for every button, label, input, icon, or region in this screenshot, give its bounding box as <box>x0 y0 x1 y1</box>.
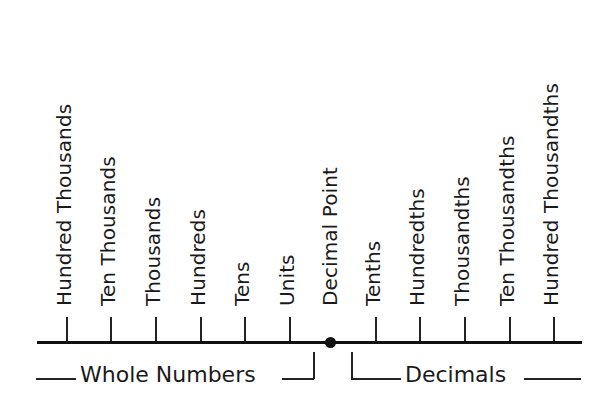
label-text: Decimal Point <box>320 167 340 306</box>
tick-hundredths <box>419 317 421 342</box>
decimals-label: Decimals <box>405 364 506 386</box>
place-value-diagram: Hundred Thousands Ten Thousands Thousand… <box>0 0 615 406</box>
label-text: Thousandths <box>452 176 472 306</box>
label-text: Hundreds <box>188 209 208 306</box>
label-text: Hundredths <box>407 188 427 306</box>
tick-tenths <box>375 317 377 342</box>
label-text: Thousands <box>143 197 163 306</box>
label-text: Tens <box>232 261 252 306</box>
whole-numbers-label: Whole Numbers <box>80 364 256 386</box>
tick-ten-thousands <box>110 317 112 342</box>
whole-bracket-end <box>313 352 315 379</box>
number-line <box>37 341 582 344</box>
whole-bracket-right-line <box>282 378 314 380</box>
tick-thousands <box>155 317 157 342</box>
decimal-bracket-right-line <box>524 378 581 380</box>
label-text: Ten Thousands <box>98 156 118 306</box>
tick-units <box>289 317 291 342</box>
decimal-point-dot <box>325 337 336 348</box>
label-text: Hundred Thousands <box>54 104 74 306</box>
label-text: Hundred Thousandths <box>541 83 561 306</box>
label-text: Tenths <box>363 241 383 306</box>
tick-hundred-thousandths <box>553 317 555 342</box>
tick-ten-thousandths <box>509 317 511 342</box>
decimal-bracket-start <box>351 352 353 379</box>
whole-bracket-left-line <box>36 378 76 380</box>
tick-tens <box>244 317 246 342</box>
tick-thousandths <box>464 317 466 342</box>
label-text: Units <box>277 254 297 306</box>
decimal-bracket-left-line <box>351 378 401 380</box>
label-text: Ten Thousandths <box>497 136 517 306</box>
tick-hundreds <box>200 317 202 342</box>
tick-hundred-thousands <box>66 317 68 342</box>
